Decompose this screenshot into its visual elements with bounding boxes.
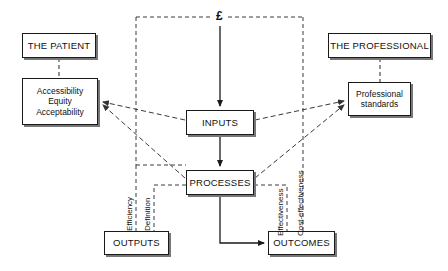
node-label: Professional standards <box>356 89 403 109</box>
node-label: OUTCOMES <box>273 237 330 248</box>
node-processes[interactable]: PROCESSES <box>186 170 254 195</box>
node-professional-standards[interactable]: Professional standards <box>348 82 411 116</box>
definition-line-dashed <box>154 185 186 231</box>
diagram-canvas: £ THE PATIENT Accessibility Equity Accep… <box>0 0 448 271</box>
node-label: Accessibility Equity Acceptability <box>36 86 84 116</box>
processes-to-standards-dashed <box>255 105 344 178</box>
node-outputs[interactable]: OUTPUTS <box>104 231 169 255</box>
node-label: PROCESSES <box>190 177 251 188</box>
processes-to-accessibility-dashed <box>103 105 185 178</box>
node-label: INPUTS <box>202 117 238 128</box>
node-inputs[interactable]: INPUTS <box>186 110 254 135</box>
edge-label-efficiency: Efficiency <box>125 197 134 231</box>
edge-label-definition: Definition <box>143 198 152 231</box>
edge-label-effectiveness: Effectiveness <box>276 189 285 236</box>
edge-label-cost-effectiveness: Cost-effectiveness <box>296 170 305 236</box>
inputs-to-standards-dashed <box>255 101 344 120</box>
node-label: THE PROFESSIONAL <box>330 40 429 51</box>
pound-symbol: £ <box>214 10 225 22</box>
inputs-to-accessibility-dashed <box>103 102 185 120</box>
node-accessibility[interactable]: Accessibility Equity Acceptability <box>22 78 98 125</box>
node-label: OUTPUTS <box>113 237 160 248</box>
node-label: THE PATIENT <box>28 40 91 51</box>
node-the-patient[interactable]: THE PATIENT <box>22 33 96 58</box>
node-the-professional[interactable]: THE PROFESSIONAL <box>328 33 431 58</box>
processes-to-outcomes-arrow <box>220 196 264 243</box>
